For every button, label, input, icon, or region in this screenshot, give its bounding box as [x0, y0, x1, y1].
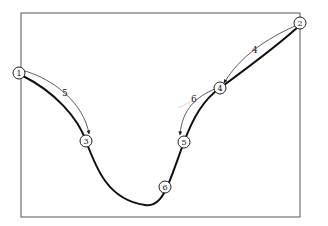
node-label: 6	[162, 183, 167, 192]
arrow-1-to-3	[25, 71, 89, 134]
node-label: 3	[83, 137, 88, 146]
node-label: 1	[16, 69, 21, 78]
arrow-label-4: 4	[252, 45, 258, 55]
node-6: 6	[159, 181, 171, 193]
node-5: 5	[178, 136, 190, 148]
node-2: 2	[294, 17, 306, 29]
main-curve	[23, 25, 300, 205]
arrow-label-6: 6	[191, 94, 197, 104]
node-label: 5	[181, 138, 186, 147]
node-4: 4	[214, 82, 226, 94]
arrow-2-to-4	[224, 26, 295, 83]
node-1: 1	[13, 67, 25, 79]
node-label: 4	[217, 84, 222, 93]
arrow-label-5: 5	[62, 88, 68, 98]
curve-diagram: 5 4 6 1 2 3 4 5 6	[0, 0, 328, 226]
node-3: 3	[80, 135, 92, 147]
node-label: 2	[297, 19, 302, 28]
